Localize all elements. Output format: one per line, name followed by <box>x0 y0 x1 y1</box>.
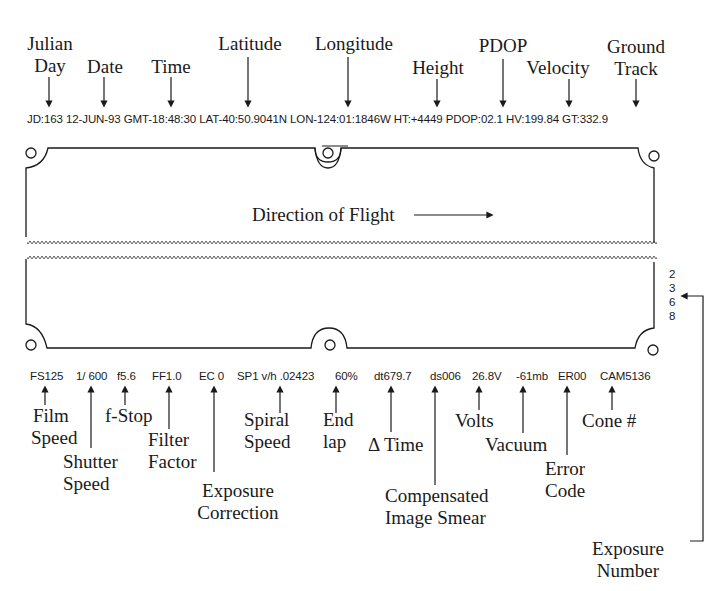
exposure-number-digits: 2 3 6 8 <box>669 267 675 323</box>
label-volts: Volts <box>455 410 494 432</box>
label-end-lap: Endlap <box>323 409 354 453</box>
label-error-code: ErrorCode <box>545 458 585 502</box>
value-volts: 26.8V <box>472 370 502 383</box>
value-error-code: ER00 <box>558 370 586 383</box>
value-exposure-correction: EC 0 <box>199 370 224 383</box>
exposure-number-arrow <box>684 296 703 541</box>
label-exposure-number: ExposureNumber <box>583 538 673 582</box>
value-cone: CAM5136 <box>600 370 650 383</box>
label-pdop: PDOP <box>472 35 534 57</box>
label-f-stop: f-Stop <box>105 405 153 427</box>
label-film-speed: FilmSpeed <box>31 405 77 449</box>
value-film-speed: FS125 <box>30 370 63 383</box>
label-shutter-speed: ShutterSpeed <box>63 451 118 495</box>
label-julian-day: JulianDay <box>26 33 74 77</box>
label-exposure-correction: ExposureCorrection <box>190 480 286 524</box>
value-end-lap: 60% <box>335 370 358 383</box>
label-delta-time: Δ Time <box>368 434 423 456</box>
value-delta-time: dt679.7 <box>374 370 412 383</box>
value-f-stop: f5.6 <box>117 370 136 383</box>
label-velocity: Velocity <box>520 57 596 79</box>
label-longitude: Longitude <box>308 33 400 55</box>
value-shutter-speed: 1/ 600 <box>76 370 107 383</box>
diagram-lines <box>0 0 727 591</box>
label-height: Height <box>404 57 472 79</box>
value-spiral-speed: SP1 v/h .02423 <box>237 370 314 383</box>
value-image-smear: ds006 <box>430 370 461 383</box>
label-spiral-speed: SpiralSpeed <box>244 409 290 453</box>
label-time: Time <box>145 56 197 78</box>
value-filter-factor: FF1.0 <box>152 370 182 383</box>
top-data-strip: JD:163 12-JUN-93 GMT-18:48:30 LAT-40:50.… <box>27 113 608 126</box>
label-compensated-image-smear: CompensatedImage Smear <box>385 485 488 529</box>
label-vacuum: Vacuum <box>485 434 547 456</box>
label-ground-track: GroundTrack <box>602 36 670 80</box>
value-vacuum: -61mb <box>516 370 548 383</box>
label-latitude: Latitude <box>210 33 290 55</box>
label-cone: Cone # <box>582 410 636 432</box>
direction-of-flight-label: Direction of Flight <box>252 204 394 226</box>
perforation-top <box>27 240 657 245</box>
label-date: Date <box>84 56 126 78</box>
upper-frame-outline <box>26 146 659 243</box>
perforation-bottom <box>27 255 657 260</box>
label-filter-factor: FilterFactor <box>148 429 197 473</box>
lower-frame-outline <box>26 259 658 355</box>
